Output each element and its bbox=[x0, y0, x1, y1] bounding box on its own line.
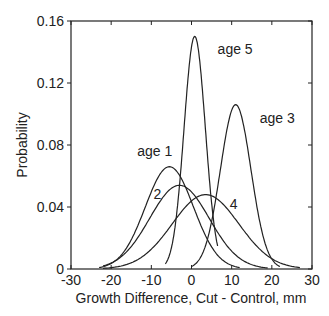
y-tick-label: 0.08 bbox=[37, 137, 64, 153]
x-tick-label: -10 bbox=[141, 272, 161, 288]
x-axis-ticks: -30-20-100102030 bbox=[61, 21, 320, 288]
chart: -30-20-100102030 00.040.080.120.16 age 1… bbox=[0, 0, 329, 316]
curve-label-age-2: 2 bbox=[153, 186, 161, 202]
curve-age-2 bbox=[103, 185, 268, 268]
curve-age-3 bbox=[192, 105, 280, 267]
x-tick-label: 0 bbox=[188, 272, 196, 288]
x-tick-label: -20 bbox=[101, 272, 121, 288]
x-tick-label: 10 bbox=[224, 272, 240, 288]
curve-label-age-4: 4 bbox=[230, 196, 238, 212]
y-tick-label: 0.04 bbox=[37, 199, 64, 215]
curve-label-age-5: age 5 bbox=[218, 41, 253, 57]
distribution-curves bbox=[99, 37, 300, 269]
x-tick-label: 30 bbox=[304, 272, 320, 288]
curve-label-age-1: age 1 bbox=[137, 143, 172, 159]
x-tick-label: 20 bbox=[264, 272, 280, 288]
y-tick-label: 0 bbox=[56, 261, 64, 277]
plot-frame bbox=[71, 21, 312, 269]
y-axis-label: Probability bbox=[14, 112, 30, 177]
curve-labels: age 12age 34age 5 bbox=[137, 41, 295, 212]
curve-label-age-3: age 3 bbox=[260, 110, 295, 126]
y-tick-label: 0.12 bbox=[37, 75, 64, 91]
y-tick-label: 0.16 bbox=[37, 13, 64, 29]
y-axis-ticks: 00.040.080.120.16 bbox=[37, 13, 312, 277]
x-axis-label: Growth Difference, Cut - Control, mm bbox=[76, 290, 307, 306]
